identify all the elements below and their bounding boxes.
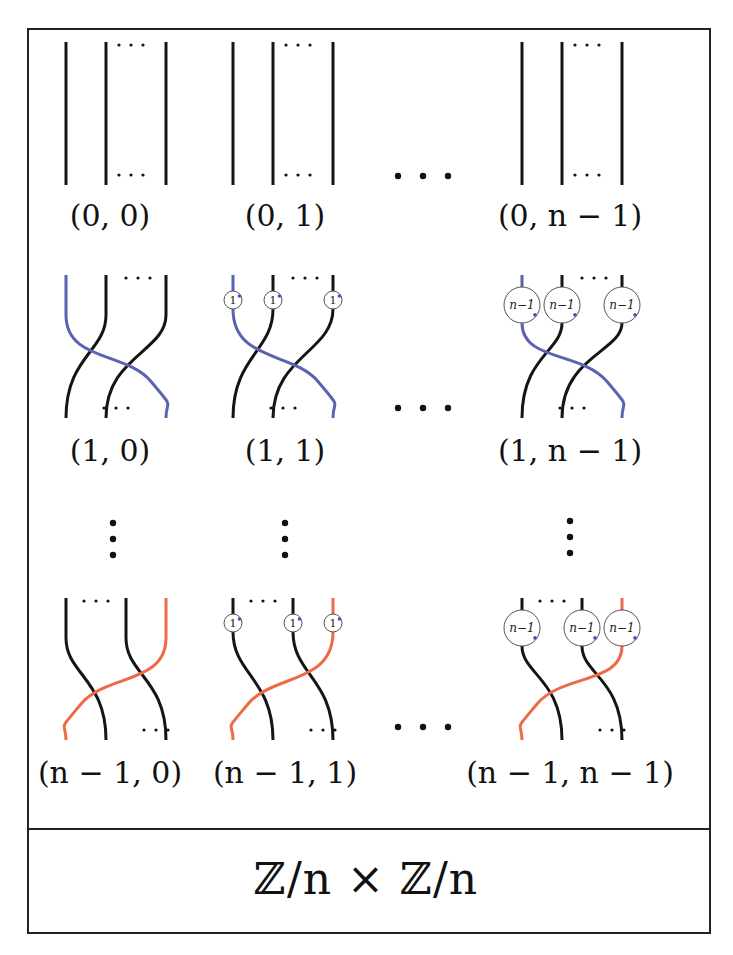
column-ellipsis-dot bbox=[420, 724, 426, 730]
ellipsis-dot bbox=[296, 173, 299, 176]
ellipsis-dot bbox=[308, 43, 311, 46]
coupon-dot-icon bbox=[238, 294, 242, 298]
row-ellipsis-dot bbox=[282, 552, 288, 558]
ellipsis-dot bbox=[126, 406, 129, 409]
coupon-label: 1 bbox=[230, 617, 237, 630]
ellipsis-dot bbox=[582, 406, 585, 409]
cell-label: (n − 1, 0) bbox=[38, 755, 182, 790]
ellipsis-dot bbox=[293, 406, 296, 409]
coupon-dot-icon bbox=[338, 294, 342, 298]
ellipsis-dot bbox=[129, 43, 132, 46]
ellipsis-dot bbox=[333, 728, 336, 731]
column-ellipsis-dot bbox=[445, 405, 451, 411]
ellipsis-dot bbox=[106, 599, 109, 602]
ellipsis-dot bbox=[309, 728, 312, 731]
cell-label: (1, 1) bbox=[245, 433, 326, 468]
ellipsis-dot bbox=[573, 43, 576, 46]
ellipsis-dot bbox=[154, 728, 157, 731]
ellipsis-dot bbox=[94, 599, 97, 602]
ellipsis-dot bbox=[558, 406, 561, 409]
ellipsis-dot bbox=[296, 43, 299, 46]
ellipsis-dot bbox=[604, 276, 607, 279]
ellipsis-dot bbox=[114, 406, 117, 409]
coupon-label: n−1 bbox=[569, 621, 594, 635]
ellipsis-dot bbox=[129, 173, 132, 176]
ellipsis-dot bbox=[597, 43, 600, 46]
ellipsis-dot bbox=[148, 276, 151, 279]
coupon-label: 1 bbox=[330, 294, 337, 307]
ellipsis-dot bbox=[291, 276, 294, 279]
coupon-dot-icon bbox=[573, 313, 577, 317]
column-ellipsis-dot bbox=[445, 724, 451, 730]
row-ellipsis-dot bbox=[282, 536, 288, 542]
row-ellipsis-dot bbox=[110, 552, 116, 558]
row-ellipsis-dot bbox=[567, 550, 573, 556]
ellipsis-dot bbox=[610, 728, 613, 731]
ellipsis-dot bbox=[538, 599, 541, 602]
cell-label: (0, 0) bbox=[70, 198, 151, 233]
ellipsis-dot bbox=[117, 173, 120, 176]
cell-label: (1, 0) bbox=[70, 433, 151, 468]
ellipsis-dot bbox=[261, 599, 264, 602]
coupon-label: 1 bbox=[330, 617, 337, 630]
coupon-dot-icon bbox=[338, 617, 342, 621]
column-ellipsis-dot bbox=[395, 724, 401, 730]
column-ellipsis-dot bbox=[445, 173, 451, 179]
ellipsis-dot bbox=[321, 728, 324, 731]
coupon-label: n−1 bbox=[609, 298, 634, 312]
group-label: ℤ/n × ℤ/n bbox=[254, 853, 478, 904]
coupon-label: 1 bbox=[270, 294, 277, 307]
coupon-label: n−1 bbox=[549, 298, 574, 312]
row-ellipsis-dot bbox=[282, 520, 288, 526]
ellipsis-dot bbox=[585, 43, 588, 46]
ellipsis-dot bbox=[124, 276, 127, 279]
row-ellipsis-dot bbox=[110, 536, 116, 542]
coupon-label: 1 bbox=[290, 617, 297, 630]
ellipsis-dot bbox=[315, 276, 318, 279]
cell-label: (1, n − 1) bbox=[498, 433, 642, 468]
ellipsis-dot bbox=[102, 406, 105, 409]
ellipsis-dot bbox=[573, 173, 576, 176]
coupon-dot-icon bbox=[633, 313, 637, 317]
ellipsis-dot bbox=[570, 406, 573, 409]
ellipsis-dot bbox=[585, 173, 588, 176]
ellipsis-dot bbox=[580, 276, 583, 279]
strand bbox=[66, 275, 106, 418]
ellipsis-dot bbox=[308, 173, 311, 176]
ellipsis-dot bbox=[269, 406, 272, 409]
coupon-dot-icon bbox=[593, 636, 597, 640]
ellipsis-dot bbox=[592, 276, 595, 279]
blue-strand bbox=[66, 275, 168, 418]
ellipsis-dot bbox=[117, 43, 120, 46]
ellipsis-dot bbox=[598, 728, 601, 731]
ellipsis-dot bbox=[166, 728, 169, 731]
row-ellipsis-dot bbox=[567, 518, 573, 524]
column-ellipsis-dot bbox=[395, 173, 401, 179]
ellipsis-dot bbox=[562, 599, 565, 602]
blue-strand bbox=[233, 275, 335, 418]
ellipsis-dot bbox=[142, 728, 145, 731]
cell-label: (0, 1) bbox=[245, 198, 326, 233]
row-ellipsis-dot bbox=[110, 520, 116, 526]
ellipsis-dot bbox=[284, 173, 287, 176]
braid-diagram-grid: 111n−1n−1n−1111n−1n−1n−1 bbox=[0, 0, 733, 955]
ellipsis-dot bbox=[273, 599, 276, 602]
row-ellipsis-dot bbox=[567, 534, 573, 540]
strand bbox=[66, 598, 106, 740]
coupon-label: n−1 bbox=[509, 621, 534, 635]
coupon-dot-icon bbox=[633, 636, 637, 640]
coupon-dot-icon bbox=[533, 636, 537, 640]
ellipsis-dot bbox=[136, 276, 139, 279]
ellipsis-dot bbox=[141, 43, 144, 46]
ellipsis-dot bbox=[550, 599, 553, 602]
strand bbox=[106, 275, 166, 418]
ellipsis-dot bbox=[281, 406, 284, 409]
cell-label: (n − 1, 1) bbox=[213, 755, 357, 790]
ellipsis-dot bbox=[597, 173, 600, 176]
column-ellipsis-dot bbox=[395, 405, 401, 411]
coupon-dot-icon bbox=[278, 294, 282, 298]
ellipsis-dot bbox=[82, 599, 85, 602]
coupon-dot-icon bbox=[238, 617, 242, 621]
column-ellipsis-dot bbox=[420, 173, 426, 179]
coupon-label: 1 bbox=[230, 294, 237, 307]
